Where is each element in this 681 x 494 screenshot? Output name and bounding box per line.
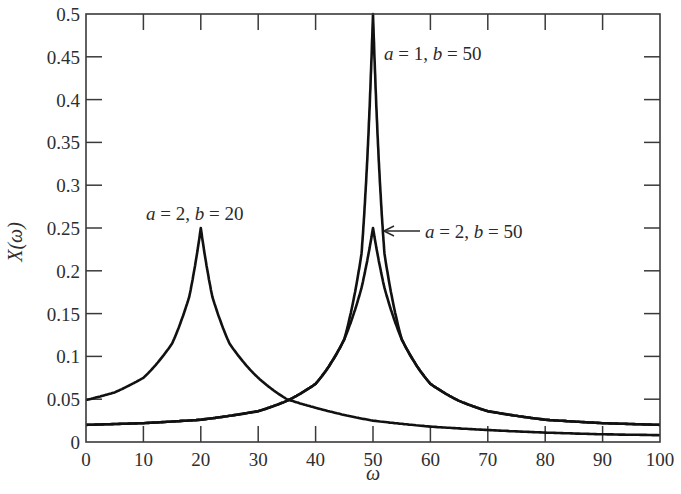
y-tick-label: 0.2 bbox=[56, 261, 80, 282]
chart: 010203040506070809010000.050.10.150.20.2… bbox=[0, 0, 681, 494]
annotation-a2-b50: a = 2, b = 50 bbox=[425, 221, 522, 242]
y-tick-label: 0.4 bbox=[56, 90, 80, 111]
x-tick-label: 0 bbox=[81, 449, 91, 470]
x-tick-label: 100 bbox=[646, 449, 675, 470]
x-axis-label: ω bbox=[366, 462, 380, 484]
curves bbox=[86, 14, 660, 435]
y-tick-label: 0.3 bbox=[56, 175, 80, 196]
curve-a-2-b-20 bbox=[86, 228, 660, 435]
y-axis-label: X(ω) bbox=[4, 222, 27, 263]
x-tick-label: 40 bbox=[306, 449, 325, 470]
x-tick-label: 10 bbox=[134, 449, 153, 470]
tick-labels: 010203040506070809010000.050.10.150.20.2… bbox=[47, 4, 675, 470]
x-tick-label: 90 bbox=[593, 449, 612, 470]
y-tick-label: 0.5 bbox=[56, 4, 80, 25]
curve-a-2-b-50 bbox=[86, 228, 660, 425]
x-tick-label: 70 bbox=[478, 449, 497, 470]
y-tick-label: 0 bbox=[71, 432, 81, 453]
y-tick-label: 0.25 bbox=[47, 218, 80, 239]
y-tick-label: 0.35 bbox=[47, 132, 80, 153]
annotation-a2-b20: a = 2, b = 20 bbox=[146, 203, 243, 224]
x-tick-label: 60 bbox=[421, 449, 440, 470]
x-tick-label: 30 bbox=[249, 449, 268, 470]
y-tick-label: 0.1 bbox=[56, 346, 80, 367]
x-tick-label: 20 bbox=[191, 449, 210, 470]
x-tick-label: 80 bbox=[536, 449, 555, 470]
y-tick-label: 0.45 bbox=[47, 47, 80, 68]
y-tick-label: 0.05 bbox=[47, 389, 80, 410]
annotation-arrow bbox=[384, 226, 420, 236]
annotation-a1-b50: a = 1, b = 50 bbox=[384, 43, 481, 64]
y-tick-label: 0.15 bbox=[47, 304, 80, 325]
